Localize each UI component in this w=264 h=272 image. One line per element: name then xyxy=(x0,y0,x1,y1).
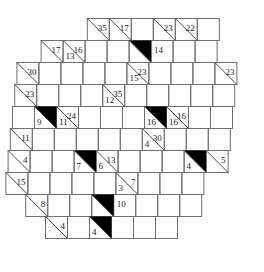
entry-cell[interactable] xyxy=(81,85,103,107)
kakuro-grid[interactable]: 3517232217161314302315232335129241116161… xyxy=(0,0,264,272)
entry-cell[interactable] xyxy=(138,173,160,195)
entry-cell[interactable] xyxy=(52,151,74,173)
clue-across-c-r7c0: 15 xyxy=(16,177,26,187)
entry-cell[interactable] xyxy=(76,129,98,151)
clue-across-c-r7c5: 7 xyxy=(131,177,136,187)
clue-down-c-r4c7: 16 xyxy=(169,117,179,127)
entry-cell[interactable] xyxy=(140,151,162,173)
entry-cell[interactable] xyxy=(156,217,178,239)
entry-cell[interactable] xyxy=(208,129,230,151)
entry-cell[interactable] xyxy=(125,85,147,107)
entry-cell[interactable] xyxy=(193,63,215,85)
entry-cell[interactable] xyxy=(28,173,50,195)
entry-cell[interactable] xyxy=(164,129,186,151)
entry-cell[interactable] xyxy=(79,107,101,129)
clue-down-c-r6c8: 4 xyxy=(187,161,192,171)
entry-cell[interactable] xyxy=(189,107,211,129)
clue-across-c-r1c1: 17 xyxy=(52,45,62,55)
kakuro-puzzle: 3517232217161314302315232335129241116161… xyxy=(0,0,264,272)
entry-cell[interactable] xyxy=(50,173,72,195)
entry-cell[interactable] xyxy=(134,217,156,239)
entry-cell[interactable] xyxy=(160,173,182,195)
clue-across-c-r6c4: 13 xyxy=(107,155,117,165)
clue-across-c-r4c7: 16 xyxy=(177,111,187,121)
entry-cell[interactable] xyxy=(30,151,52,173)
entry-cell[interactable] xyxy=(48,195,70,217)
entry-cell[interactable] xyxy=(32,129,54,151)
entry-cell[interactable] xyxy=(54,129,76,151)
entry-cell[interactable] xyxy=(147,85,169,107)
entry-cell[interactable] xyxy=(149,63,171,85)
clue-across-c-r3c4: 35 xyxy=(113,89,123,99)
entry-cell[interactable] xyxy=(182,173,204,195)
clue-across-c-r8c1: 8 xyxy=(41,199,46,209)
entry-cell[interactable] xyxy=(101,107,123,129)
entry-cell[interactable] xyxy=(171,63,193,85)
clue-down-c-r7c5: 3 xyxy=(118,183,123,193)
entry-cell[interactable] xyxy=(72,173,94,195)
entry-cell[interactable] xyxy=(83,63,105,85)
entry-cell[interactable] xyxy=(107,41,129,63)
entry-cell[interactable] xyxy=(169,85,191,107)
clue-across-c-r1c5: 14 xyxy=(154,45,164,55)
clue-down-c-r1c2: 13 xyxy=(66,51,76,61)
entry-cell[interactable] xyxy=(61,63,83,85)
clue-across-c-r8c4: 10 xyxy=(117,199,127,209)
entry-cell[interactable] xyxy=(162,151,184,173)
entry-cell[interactable] xyxy=(98,129,120,151)
clue-across-c-r0c4: 17 xyxy=(120,23,130,33)
clue-across-c-r1c2: 16 xyxy=(74,45,84,55)
clue-down-c-r3c4: 12 xyxy=(105,95,114,105)
clue-down-c-r6c3: 7 xyxy=(77,161,82,171)
clue-down-c-r4c6: 16 xyxy=(147,117,157,127)
clue-across-c-r2c0: 30 xyxy=(27,67,37,77)
entry-cell[interactable] xyxy=(39,63,61,85)
clue-down-c-r4c2: 11 xyxy=(59,117,68,127)
clue-down-c-r4c1: 9 xyxy=(37,117,42,127)
entry-cell[interactable] xyxy=(191,85,213,107)
entry-cell[interactable] xyxy=(211,107,233,129)
entry-cell[interactable] xyxy=(195,41,217,63)
entry-cell[interactable] xyxy=(59,85,81,107)
clue-across-c-r0c6: 23 xyxy=(164,23,174,33)
clue-across-c-r0c7: 22 xyxy=(186,23,195,33)
entry-cell[interactable] xyxy=(37,85,59,107)
clue-across-c-r9c2: 4 xyxy=(61,221,66,231)
clue-across-c-r0c3: 35 xyxy=(98,23,108,33)
entry-cell[interactable] xyxy=(105,63,127,85)
entry-cell[interactable] xyxy=(120,129,142,151)
clue-across-c-r2c5: 23 xyxy=(137,67,147,77)
entry-cell[interactable] xyxy=(186,129,208,151)
clue-across-c-r6c9: 5 xyxy=(221,155,226,165)
clue-across-c-r3c0: 23 xyxy=(25,89,35,99)
entry-cell[interactable] xyxy=(158,195,180,217)
entry-cell[interactable] xyxy=(131,19,153,41)
entry-cell[interactable] xyxy=(123,107,145,129)
entry-cell[interactable] xyxy=(118,151,140,173)
clue-across-c-r2c9: 23 xyxy=(225,67,235,77)
entry-cell[interactable] xyxy=(85,41,107,63)
entry-cell[interactable] xyxy=(94,173,116,195)
entry-cell[interactable] xyxy=(136,195,158,217)
entry-cell[interactable] xyxy=(197,19,219,41)
clue-across-c-r4c2: 24 xyxy=(67,111,77,121)
entry-cell[interactable] xyxy=(180,195,202,217)
clue-across-c-r5c6: 30 xyxy=(153,133,163,143)
clue-down-c-r6c4: 6 xyxy=(99,161,104,171)
clue-down-c-r9c4: 4 xyxy=(92,227,97,237)
entry-cell[interactable] xyxy=(68,217,90,239)
entry-cell[interactable] xyxy=(112,217,134,239)
entry-cell[interactable] xyxy=(213,85,235,107)
clue-across-c-r5c0: 11 xyxy=(21,133,30,143)
entry-cell[interactable] xyxy=(173,41,195,63)
clue-across-c-r6c0: 4 xyxy=(23,155,28,165)
entry-cell[interactable] xyxy=(70,195,92,217)
clue-down-c-r2c5: 15 xyxy=(129,73,139,83)
entry-cell[interactable] xyxy=(13,107,35,129)
clue-down-c-r5c6: 4 xyxy=(145,139,150,149)
